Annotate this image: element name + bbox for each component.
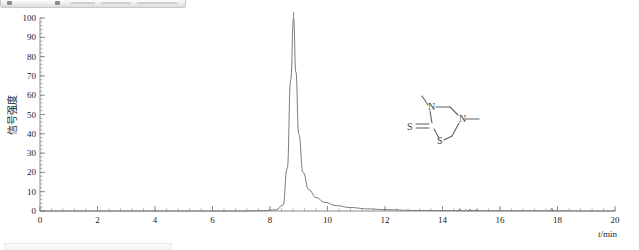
toolbar-icon-2[interactable] — [55, 1, 60, 5]
y-tick-label: 20 — [27, 167, 37, 177]
chart-axes — [40, 18, 615, 211]
cropped-toolbar-strip[interactable] — [0, 0, 186, 8]
peak-retention-time-label: 8.82min — [279, 10, 309, 12]
y-tick-label: 50 — [27, 110, 37, 120]
x-tick-label: 8 — [268, 215, 273, 225]
y-tick-label: 100 — [23, 13, 37, 23]
x-axis-tick-labels: 02468101214161820 — [38, 215, 620, 225]
y-axis-tick-labels: 0102030405060708090100 — [23, 13, 37, 216]
bond-c4-n5 — [450, 107, 458, 115]
x-tick-label: 10 — [323, 215, 333, 225]
y-tick-label: 40 — [27, 129, 37, 139]
x-axis-label: t/min — [598, 229, 618, 239]
dazomet-skeletal-structure: S N N S — [407, 96, 479, 146]
y-tick-label: 90 — [27, 32, 37, 42]
atom-label-ring-nitrogen-3: N — [428, 101, 435, 112]
chromatogram-svg: 02468101214161820 0102030405060708090100… — [0, 10, 639, 242]
bond-c6-s1 — [444, 136, 452, 140]
x-tick-label: 18 — [553, 215, 563, 225]
toolbar-segment-2 — [101, 2, 131, 4]
y-tick-label: 80 — [27, 52, 37, 62]
x-tick-label: 4 — [153, 215, 158, 225]
chromatogram-chart: 02468101214161820 0102030405060708090100… — [0, 10, 639, 242]
toolbar-icon-1[interactable] — [7, 1, 12, 5]
toolbar-segment-1 — [71, 2, 95, 4]
x-tick-label: 16 — [496, 215, 506, 225]
x-tick-label: 0 — [38, 215, 43, 225]
toolbar-segment-3 — [137, 2, 177, 4]
atom-label-ring-sulfur: S — [437, 135, 443, 146]
y-tick-label: 70 — [27, 71, 37, 81]
x-tick-label: 12 — [381, 215, 390, 225]
y-tick-label: 60 — [27, 90, 37, 100]
y-tick-label: 30 — [27, 148, 37, 158]
x-tick-label: 20 — [611, 215, 621, 225]
cropped-statusbar-strip[interactable] — [4, 243, 172, 250]
y-axis-label: 信号强度 — [6, 95, 18, 135]
x-tick-label: 2 — [95, 215, 100, 225]
atom-label-ring-nitrogen-5: N — [459, 113, 466, 124]
chromatogram-trace — [40, 18, 615, 211]
y-tick-label: 0 — [32, 206, 37, 216]
bond-c2-n3 — [430, 111, 432, 123]
bond-n5-c6 — [452, 123, 459, 136]
atom-label-thione-sulfur: S — [407, 121, 413, 132]
x-tick-label: 6 — [210, 215, 215, 225]
x-tick-label: 14 — [438, 215, 448, 225]
y-tick-label: 10 — [27, 187, 37, 197]
